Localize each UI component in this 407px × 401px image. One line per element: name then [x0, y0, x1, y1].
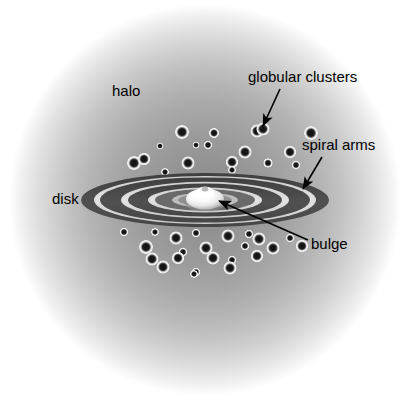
label-bulge: bulge: [311, 236, 348, 251]
globular-cluster-dot: [295, 239, 308, 252]
globular-cluster-dot: [175, 125, 190, 140]
globular-cluster-dot: [285, 233, 294, 242]
globular-cluster-dot: [206, 251, 220, 265]
globular-cluster-dot: [221, 229, 235, 243]
label-disk: disk: [52, 191, 79, 206]
globular-cluster-dot: [252, 232, 266, 246]
globular-cluster-dot: [192, 141, 199, 148]
label-halo: halo: [112, 83, 140, 98]
globular-cluster-dot: [169, 231, 183, 245]
globular-cluster-dot: [240, 241, 249, 250]
globular-cluster-dot: [203, 140, 212, 149]
globular-cluster-dot: [171, 251, 184, 264]
globular-cluster-dot: [283, 145, 296, 158]
globular-cluster-dot: [209, 128, 220, 139]
globular-cluster-dot: [119, 227, 128, 236]
globular-cluster-dot: [244, 229, 253, 238]
globular-cluster-dot: [238, 145, 252, 159]
globular-cluster-dot: [156, 142, 163, 149]
globular-cluster-dot: [223, 261, 237, 275]
globular-cluster-dot: [250, 249, 263, 262]
label-globular-clusters: globular clusters: [248, 69, 357, 84]
globular-cluster-dot: [228, 166, 236, 174]
globular-cluster-dot: [156, 260, 170, 274]
label-spiral-arms: spiral arms: [302, 137, 375, 152]
globular-cluster-dot: [190, 270, 198, 278]
globular-cluster-dot: [181, 156, 195, 170]
globular-cluster-dot: [137, 152, 150, 165]
globular-cluster-dot: [151, 228, 159, 236]
globular-cluster-dot: [266, 241, 280, 255]
globular-cluster-dot: [291, 160, 300, 169]
globular-cluster-dot: [263, 158, 273, 168]
galaxy-diagram-figure: halo globular clusters spiral arms disk …: [0, 0, 407, 401]
globular-cluster-dot: [191, 228, 200, 237]
